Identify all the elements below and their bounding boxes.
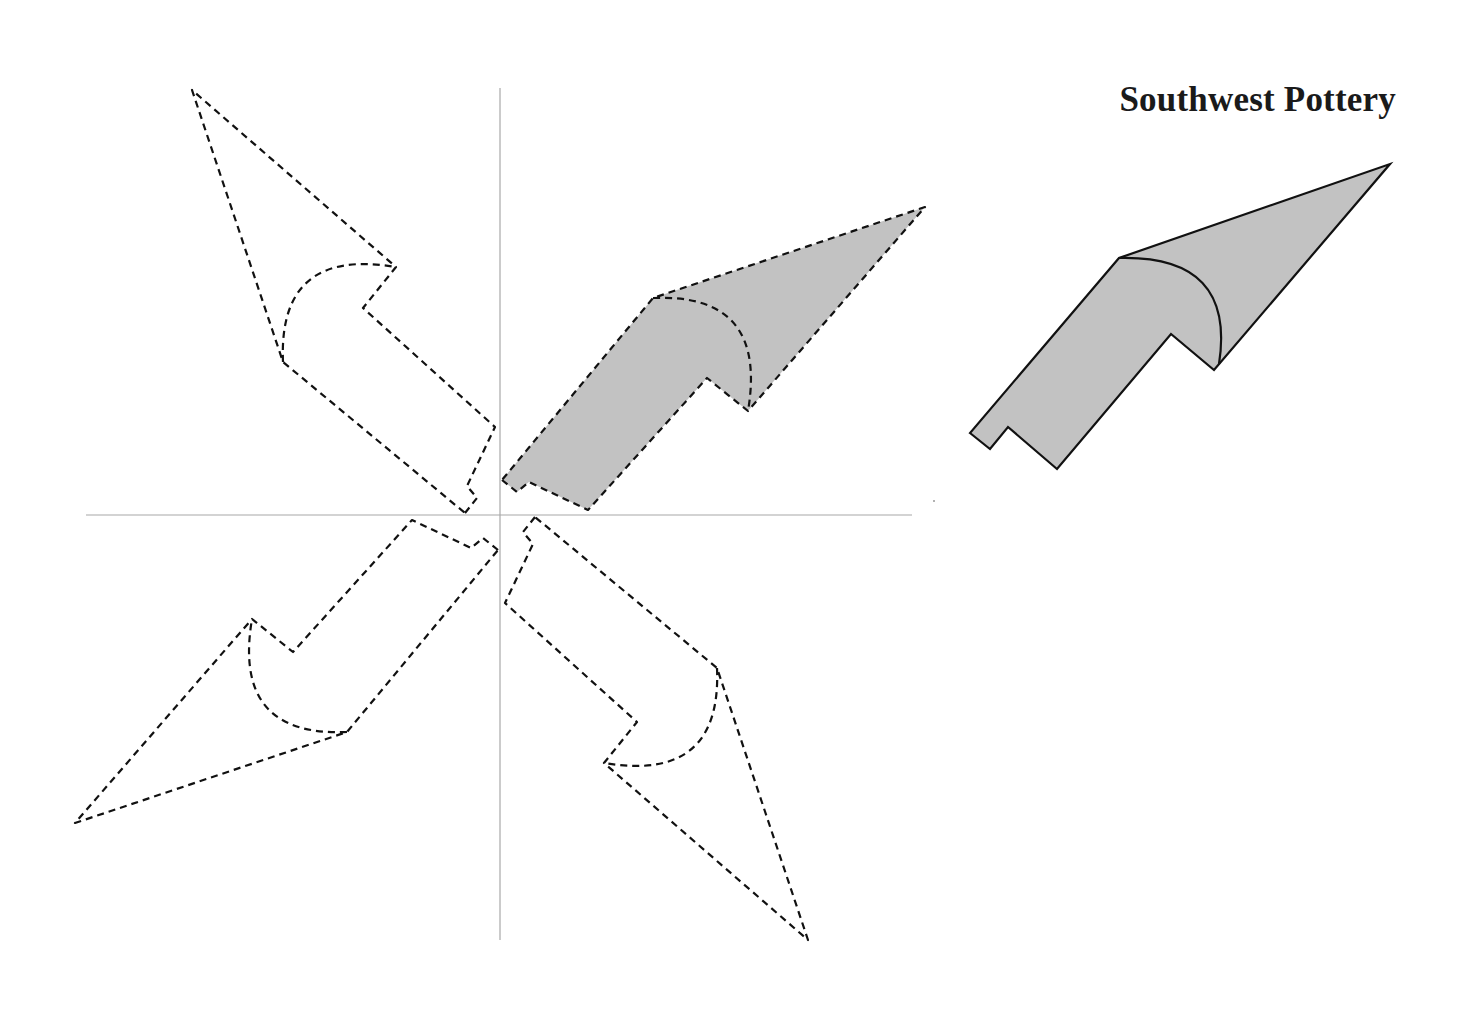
motif-quadrant-1-shaded bbox=[502, 207, 925, 510]
motif-quadrant-3-dashed bbox=[75, 520, 498, 823]
axis-dot bbox=[933, 500, 935, 502]
rotation-diagram bbox=[0, 0, 1464, 1019]
motif-quadrant-4-dashed bbox=[505, 517, 808, 940]
motif-quadrant-2-dashed bbox=[192, 90, 495, 513]
reference-motif bbox=[970, 164, 1390, 469]
